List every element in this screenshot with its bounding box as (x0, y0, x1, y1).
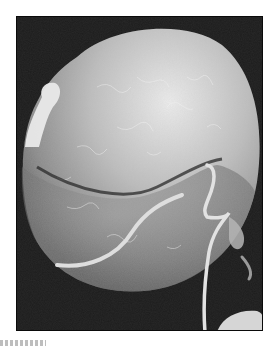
dinoflagellate-micrograph (17, 17, 263, 331)
caption-fragment (0, 340, 46, 346)
micrograph-frame (16, 16, 263, 331)
